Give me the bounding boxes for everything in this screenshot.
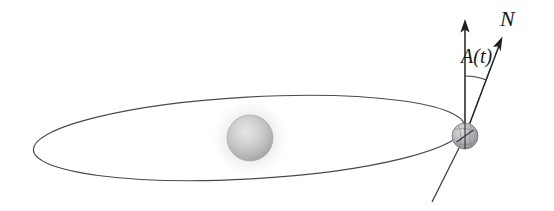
obliquity-angle-arc (465, 76, 487, 80)
orbiting-planet (452, 123, 478, 149)
normal-axis-label: N (500, 8, 515, 30)
orbital-normal-arrow (460, 19, 469, 136)
diagram-canvas (0, 0, 554, 211)
obliquity-angle-label: A(t) (461, 46, 492, 66)
orbital-diagram-figure: N A(t) (0, 0, 554, 211)
central-star (227, 115, 273, 161)
